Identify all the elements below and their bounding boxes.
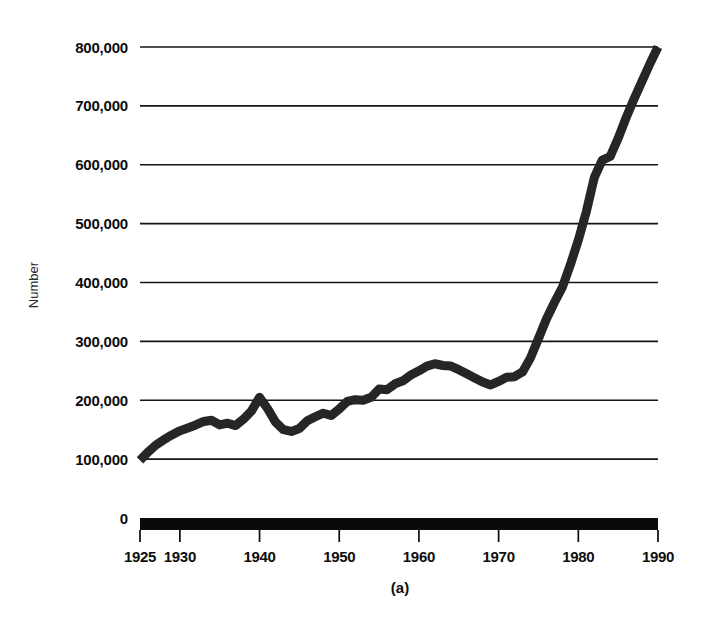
x-tick-label: 1950 — [323, 548, 355, 565]
series-line — [140, 47, 658, 460]
x-tick-label: 1990 — [642, 548, 674, 565]
figure-caption: (a) — [391, 579, 409, 596]
x-axis-tick-marks — [140, 530, 658, 542]
x-tick-label: 1980 — [562, 548, 594, 565]
x-tick-label: 1930 — [164, 548, 196, 565]
y-tick-label: 300,000 — [75, 333, 128, 350]
y-tick-label: 800,000 — [75, 39, 128, 56]
x-tick-label: 1925 — [124, 548, 156, 565]
y-tick-label: 100,000 — [75, 451, 128, 468]
chart-svg: 0100,000200,000300,000400,000500,000600,… — [0, 0, 708, 631]
line-chart-figure: 0100,000200,000300,000400,000500,000600,… — [0, 0, 708, 631]
x-tick-label: 1940 — [243, 548, 275, 565]
y-tick-label: 600,000 — [75, 156, 128, 173]
data-series — [140, 47, 658, 460]
y-tick-label: 500,000 — [75, 215, 128, 232]
y-axis-title: Number — [26, 261, 41, 308]
y-axis-tick-labels: 0100,000200,000300,000400,000500,000600,… — [75, 39, 128, 527]
x-tick-label: 1970 — [483, 548, 515, 565]
x-tick-label: 1960 — [403, 548, 435, 565]
x-axis-baseline-bar — [140, 518, 658, 530]
chart-page: 0100,000200,000300,000400,000500,000600,… — [0, 0, 708, 631]
y-tick-label: 700,000 — [75, 97, 128, 114]
y-tick-label: 0 — [120, 510, 128, 527]
x-axis-tick-labels: 19251930194019501960197019801990 — [124, 548, 674, 565]
gridlines — [140, 47, 658, 459]
y-tick-label: 400,000 — [75, 274, 128, 291]
y-tick-label: 200,000 — [75, 392, 128, 409]
x-axis-bar — [140, 518, 658, 530]
